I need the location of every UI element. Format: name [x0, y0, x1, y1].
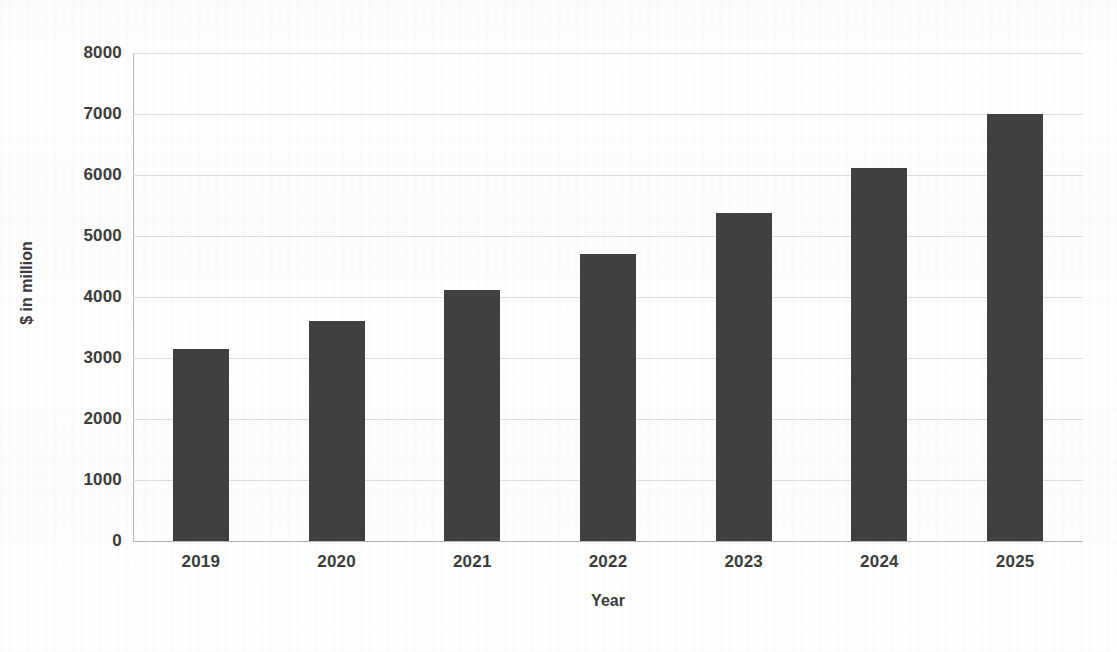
x-axis-tick-label: 2020 — [277, 552, 397, 572]
x-axis-tick-label: 2025 — [955, 552, 1075, 572]
x-axis-tick-label: 2022 — [548, 552, 668, 572]
bar[interactable] — [851, 168, 907, 541]
x-axis-title: Year — [133, 592, 1083, 610]
y-axis-tick-label: 7000 — [2, 104, 122, 124]
y-axis-tick-label: 2000 — [2, 409, 122, 429]
bar[interactable] — [580, 254, 636, 541]
gridline — [133, 53, 1083, 54]
y-axis-tick-label: 8000 — [2, 43, 122, 63]
gridline — [133, 175, 1083, 176]
bar[interactable] — [173, 349, 229, 541]
bar-chart: 800070006000500040003000200010000 $ in m… — [0, 0, 1117, 652]
gridline — [133, 236, 1083, 237]
bar[interactable] — [716, 213, 772, 541]
y-axis-tick-label: 6000 — [2, 165, 122, 185]
bar[interactable] — [987, 114, 1043, 541]
gridline — [133, 114, 1083, 115]
plot-area — [133, 53, 1083, 541]
x-axis-tick-label: 2024 — [819, 552, 939, 572]
y-axis-tick-label: 1000 — [2, 470, 122, 490]
x-axis-tick-label: 2021 — [412, 552, 532, 572]
y-axis-title: $ in million — [18, 193, 36, 373]
bar[interactable] — [309, 321, 365, 541]
x-axis-tick-label: 2023 — [684, 552, 804, 572]
x-axis-tick-label: 2019 — [141, 552, 261, 572]
y-axis-tick-label: 0 — [2, 531, 122, 551]
bar[interactable] — [444, 290, 500, 541]
gridline — [133, 541, 1083, 542]
